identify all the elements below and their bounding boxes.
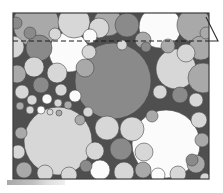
disc [75, 115, 85, 125]
disc [16, 102, 24, 110]
disc [189, 93, 203, 107]
disc [55, 84, 67, 96]
caption-smudge [7, 180, 65, 185]
disc [47, 63, 67, 83]
disc [177, 44, 195, 62]
disc [26, 106, 34, 114]
disc [191, 112, 207, 128]
disc [120, 117, 144, 141]
disc [90, 160, 110, 180]
disc [146, 110, 158, 122]
disc [24, 57, 44, 77]
disc [172, 87, 188, 103]
disc [15, 127, 27, 139]
disc [135, 162, 151, 178]
disc [27, 95, 37, 105]
disc [82, 45, 96, 59]
disc [49, 28, 61, 40]
disc [37, 106, 45, 114]
disc [64, 101, 72, 109]
disc [186, 154, 198, 166]
disc [95, 116, 119, 140]
disc [15, 85, 29, 99]
disc [141, 42, 151, 52]
disc [24, 27, 36, 39]
disc [115, 13, 139, 37]
disc [47, 109, 53, 115]
figure-root [0, 0, 223, 193]
disc-packing-figure [0, 0, 223, 193]
disc [153, 85, 167, 99]
disc [110, 138, 132, 160]
disc [54, 99, 62, 107]
disc [76, 59, 94, 77]
disc [195, 133, 209, 147]
disc [69, 90, 81, 102]
disc [16, 162, 32, 178]
disc [56, 110, 62, 116]
disc [80, 160, 92, 172]
disc [135, 143, 153, 161]
disc [86, 142, 104, 160]
disc [33, 77, 49, 93]
disc [83, 107, 93, 117]
disc [42, 94, 52, 104]
